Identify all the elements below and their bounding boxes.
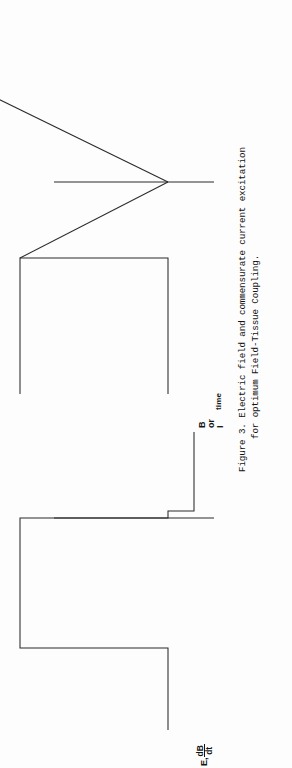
- plot-b-ylabel-line3: I: [216, 419, 225, 428]
- plot-e-ylabel: E,dBdt: [196, 744, 214, 766]
- plot-e-dbdt: time: [18, 432, 214, 732]
- scanned-figure-page: time E,dBdt time B or I: [0, 0, 292, 768]
- figure-caption-line-1: Figure 3. Electric field and commensurat…: [237, 147, 248, 472]
- b-or-i-ramp-one: [20, 258, 168, 394]
- plot-e-ylabel-denominator: dt: [205, 744, 214, 757]
- plot-b-ylabel: B or I: [198, 419, 226, 428]
- plot-b-or-i: time: [18, 96, 214, 396]
- plot-e-time-label: time: [214, 393, 223, 410]
- rotated-page-content: time E,dBdt time B or I: [0, 0, 292, 768]
- figure-caption: Figure 3. Electric field and commensurat…: [236, 42, 263, 472]
- b-or-i-fall: [20, 182, 168, 258]
- figure-caption-line-2: for optimum Field-Tissue Coupling.: [249, 42, 262, 472]
- e-dbdt-waveform: [20, 432, 194, 730]
- b-or-i-ramp-two: [0, 96, 168, 182]
- figure-area: time E,dBdt time B or I: [0, 0, 292, 768]
- plot-e-ylabel-var: E,: [199, 757, 209, 766]
- plot-b-or-i-svg: [18, 96, 214, 396]
- plot-e-dbdt-svg: [18, 432, 214, 732]
- plot-e-ylabel-fraction: dBdt: [196, 744, 214, 757]
